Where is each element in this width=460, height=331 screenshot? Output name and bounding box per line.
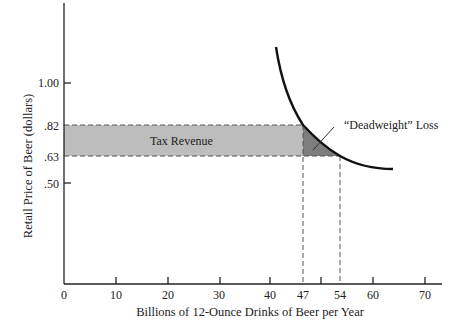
x-tick-10: 10 [110, 288, 122, 302]
x-tick-60: 60 [367, 288, 379, 302]
deadweight-loss-label: “Deadweight” Loss [344, 118, 439, 132]
x-tick-30: 30 [213, 288, 225, 302]
y-tick-0-82: .82 [44, 119, 59, 133]
x-tick-54: 54 [334, 288, 346, 302]
deadweight-loss-chart: 1.00 .82 .63 .50 0 10 20 30 40 47 54 60 … [0, 0, 460, 331]
y-axis-label: Retail Price of Beer (dollars) [21, 94, 35, 238]
y-tick-0-63: .63 [44, 150, 59, 164]
x-tick-47: 47 [297, 288, 309, 302]
tax-revenue-label: Tax Revenue [150, 134, 213, 148]
x-tick-20: 20 [162, 288, 174, 302]
x-axis-label: Billions of 12-Ounce Drinks of Beer per … [136, 305, 365, 319]
x-tick-0: 0 [61, 288, 67, 302]
x-tick-70: 70 [419, 288, 431, 302]
y-tick-1-00: 1.00 [38, 76, 59, 90]
y-tick-0-50: .50 [44, 177, 59, 191]
x-tick-40: 40 [264, 288, 276, 302]
